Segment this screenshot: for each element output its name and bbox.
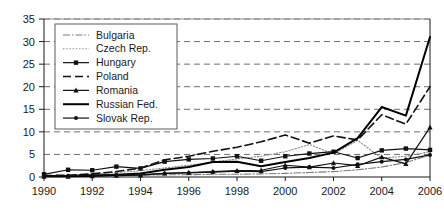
data-point-marker [66,168,70,172]
data-point-marker [211,170,215,174]
y-tick-label: 20 [23,81,35,93]
data-point-marker [307,151,311,155]
data-point-marker [332,166,336,170]
data-point-marker [404,157,408,161]
data-point-marker [380,148,384,152]
chart-legend: BulgariaCzech Rep.HungaryPolandRomaniaRu… [55,24,177,129]
data-point-marker [259,170,263,174]
y-tick-label: 30 [23,36,35,48]
data-point-marker [187,171,191,175]
y-tick-label: 5 [29,148,35,160]
legend-label: Russian Fed. [96,98,158,110]
data-point-marker [187,157,191,161]
y-tick-label: 35 [23,13,35,25]
x-tick-label: 1994 [128,185,152,197]
line-chart: 05101520253035 1990199219941996199820002… [0,0,444,218]
data-point-marker [307,165,311,169]
legend-label: Hungary [96,56,136,68]
legend-label: Poland [96,70,129,82]
data-point-marker [283,166,287,170]
y-tick-label: 0 [29,171,35,183]
x-tick-label: 1992 [80,185,104,197]
x-tick-label: 1990 [32,185,56,197]
data-point-marker [283,154,287,158]
legend-label: Bulgaria [96,29,135,41]
legend-label: Czech Rep. [96,42,151,54]
data-point-marker [114,173,118,177]
x-tick-label: 2006 [418,185,442,197]
data-point-marker [428,148,432,152]
data-point-marker [42,174,46,178]
data-point-marker [356,162,360,166]
x-tick-label: 2002 [321,185,345,197]
data-point-marker [404,146,408,150]
data-point-marker [380,160,384,164]
data-point-marker [428,153,432,157]
x-tick-label: 2000 [273,185,297,197]
data-point-marker [163,171,167,175]
y-tick-label: 10 [23,126,35,138]
chart-canvas: 05101520253035 1990199219941996199820002… [0,0,444,218]
data-point-marker [259,159,263,163]
data-point-marker [235,169,239,173]
x-tick-label: 1996 [177,185,201,197]
data-point-marker [235,154,239,158]
data-point-marker [66,174,70,178]
data-point-marker [139,173,143,177]
x-tick-label: 2004 [370,185,394,197]
y-tick-label: 15 [23,103,35,115]
x-tick-label: 1998 [225,185,249,197]
data-point-marker [74,116,78,120]
data-point-marker [74,60,78,64]
data-point-marker [90,173,94,177]
legend-label: Romania [96,84,138,96]
data-point-marker [90,168,94,172]
data-point-marker [211,156,215,160]
data-point-marker [114,164,118,168]
data-point-marker [355,156,359,160]
legend-label: Slovak Rep. [96,112,153,124]
y-tick-label: 25 [23,58,35,70]
